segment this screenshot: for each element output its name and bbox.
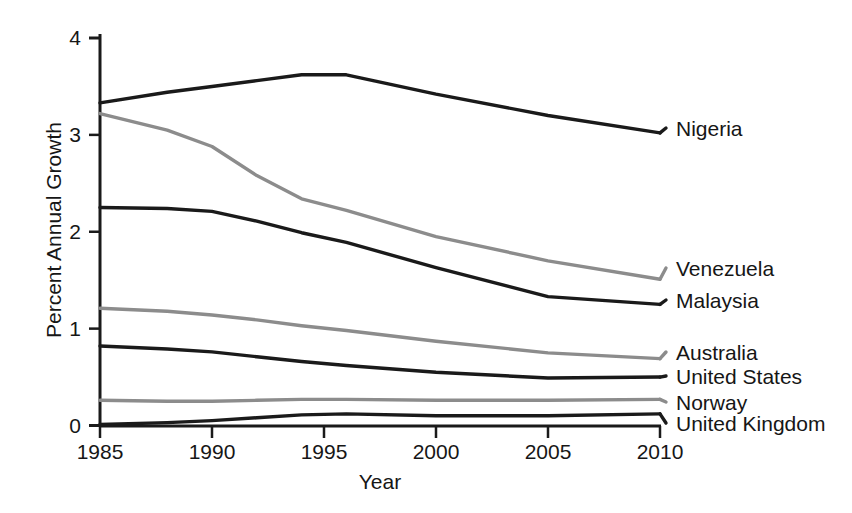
series-leader-line [660,128,666,133]
x-axis-title: Year [0,470,760,494]
series-leader-line [660,300,666,304]
y-tick-marks [89,38,100,426]
series-label-malaysia: Malaysia [676,290,759,311]
series-leader-line [660,352,666,359]
series-leader-line [660,414,666,423]
y-tick-label: 4 [43,27,81,48]
series-label-united-kingdom: United Kingdom [676,413,825,434]
x-tick-marks [100,426,660,438]
series-line [100,114,660,280]
series-label-australia: Australia [676,342,758,363]
series-leader-line [660,399,666,402]
x-tick-label: 1990 [162,441,262,462]
line-chart: 01234 198519901995200020052010 NigeriaVe… [0,0,852,513]
series-line [100,208,660,305]
x-tick-label: 2010 [610,441,710,462]
x-tick-label: 1995 [274,441,374,462]
series-line [100,414,660,425]
series-line [100,346,660,378]
series-line [100,399,660,401]
x-tick-label: 2005 [498,441,598,462]
series-leader-lines [660,128,666,423]
y-axis-title: Percent Annual Growth [42,80,66,380]
x-tick-label: 1985 [50,441,150,462]
series-lines [100,75,660,425]
series-label-norway: Norway [676,392,747,413]
series-label-united-states: United States [676,366,802,387]
series-leader-line [660,376,666,377]
x-tick-label: 2000 [386,441,486,462]
y-tick-label: 0 [43,415,81,436]
series-label-nigeria: Nigeria [676,118,743,139]
series-leader-line [660,268,666,279]
series-line [100,75,660,133]
series-label-venezuela: Venezuela [676,258,774,279]
